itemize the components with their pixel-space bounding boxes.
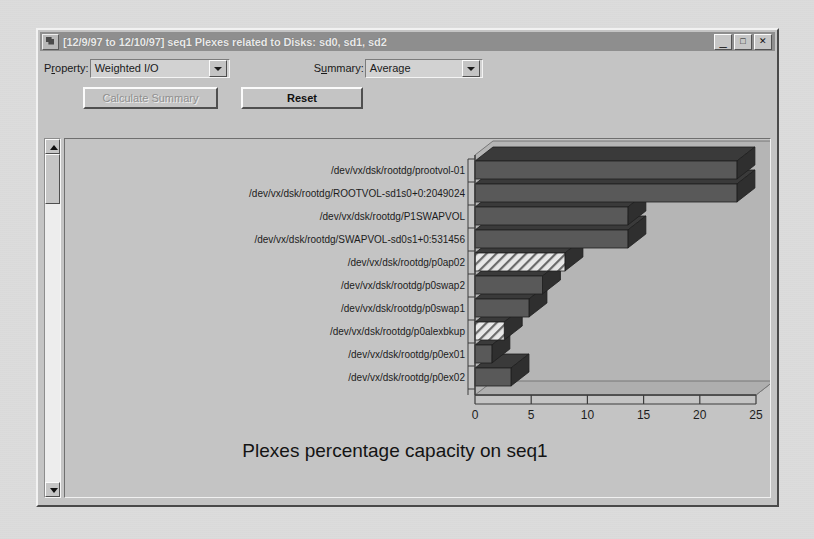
property-label: Property:: [44, 62, 89, 74]
category-label: /dev/vx/dsk/rootdg/p0swap1: [341, 303, 465, 314]
category-label: /dev/vx/dsk/rootdg/p0ap02: [348, 257, 466, 268]
minimize-button[interactable]: _: [714, 34, 732, 50]
summary-value: Average: [366, 62, 461, 74]
category-label: /dev/vx/dsk/rootdg/SWAPVOL-sd0s1+0:53145…: [254, 234, 465, 245]
category-label: /dev/vx/dsk/rootdg/p0ex01: [348, 349, 465, 360]
close-button[interactable]: ✕: [754, 34, 772, 50]
calculate-summary-button[interactable]: Calculate Summary: [83, 87, 218, 109]
chart-panel[interactable]: /dev/vx/dsk/rootdg/p0ex02/dev/vx/dsk/roo…: [64, 138, 771, 498]
maximize-icon: □: [735, 35, 751, 49]
chart-title: Plexes percentage capacity on seq1: [242, 440, 547, 461]
reset-button[interactable]: Reset: [241, 87, 363, 109]
bar-0[interactable]: [475, 147, 755, 179]
chevron-down-icon[interactable]: [462, 60, 480, 77]
maximize-button[interactable]: □: [734, 34, 752, 50]
category-label: /dev/vx/dsk/rootdg/p0swap2: [341, 280, 465, 291]
category-label: /dev/vx/dsk/rootdg/p0ex02: [348, 372, 465, 383]
window-controls: _ □ ✕: [714, 34, 773, 50]
x-axis-tick-label: 25: [749, 408, 763, 422]
x-axis-tick-label: 5: [528, 408, 535, 422]
x-axis-tick-label: 20: [693, 408, 707, 422]
scrollbar-track[interactable]: [45, 154, 60, 482]
property-dropdown[interactable]: Weighted I/O: [90, 59, 230, 78]
category-label: /dev/vx/dsk/rootdg/P1SWAPVOL: [320, 211, 466, 222]
vertical-scrollbar[interactable]: [44, 138, 61, 498]
close-icon: ✕: [755, 35, 771, 49]
bar-chart: /dev/vx/dsk/rootdg/p0ex02/dev/vx/dsk/roo…: [65, 139, 770, 495]
category-label: /dev/vx/dsk/rootdg/ROOTVOL-sd1s0+0:20490…: [249, 188, 465, 199]
title-bar: [12/9/97 to 12/10/97] seq1 Plexes relate…: [40, 32, 775, 51]
scroll-down-arrow-icon[interactable]: [45, 482, 60, 497]
category-label: /dev/vx/dsk/rootdg/p0alexbkup: [330, 326, 466, 337]
x-axis-tick-label: 0: [472, 408, 479, 422]
window-title: [12/9/97 to 12/10/97] seq1 Plexes relate…: [63, 36, 714, 48]
x-axis-tick-label: 15: [637, 408, 651, 422]
filter-toolbar: Property: Weighted I/O Summary: Average: [44, 57, 771, 79]
application-window: [12/9/97 to 12/10/97] seq1 Plexes relate…: [36, 28, 779, 507]
minimize-icon: _: [715, 35, 731, 49]
action-button-row: Calculate Summary Reset: [44, 86, 771, 110]
chevron-down-icon[interactable]: [209, 60, 227, 77]
scrollbar-thumb[interactable]: [45, 154, 60, 204]
scroll-up-arrow-icon[interactable]: [45, 139, 60, 154]
summary-dropdown[interactable]: Average: [365, 59, 483, 78]
x-axis-tick-label: 10: [581, 408, 595, 422]
summary-label: Summary:: [314, 62, 364, 74]
app-icon: [42, 34, 59, 50]
chart-client-area: /dev/vx/dsk/rootdg/p0ex02/dev/vx/dsk/roo…: [44, 138, 771, 498]
category-label: /dev/vx/dsk/rootdg/prootvol-01: [331, 165, 465, 176]
property-value: Weighted I/O: [91, 62, 208, 74]
